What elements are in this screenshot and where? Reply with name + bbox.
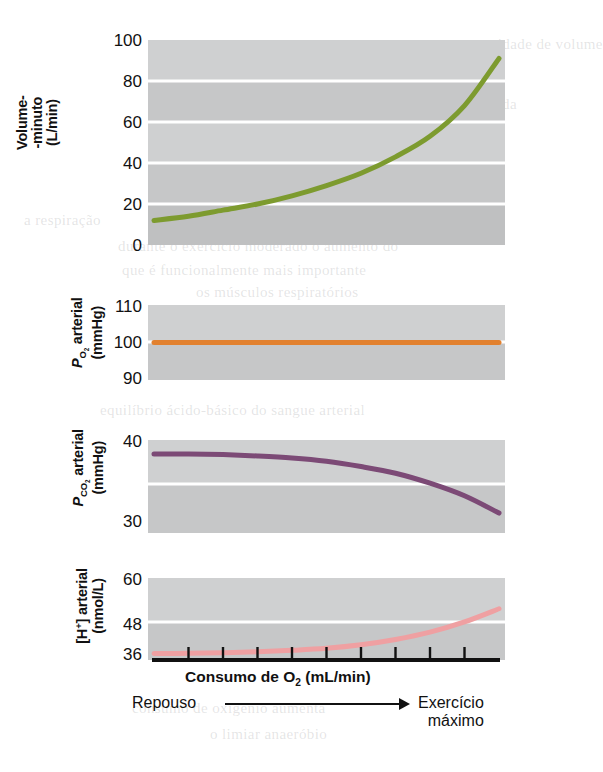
panel-pco2-arterial-svg (148, 440, 505, 533)
panel-h-arterial-plot (148, 578, 505, 660)
arrow-right-label-line2: máximo (418, 712, 484, 730)
arrow-right-label: Exercício máximo (418, 694, 484, 731)
ytick-90: 90 (96, 369, 142, 389)
x-axis-line (152, 658, 500, 662)
ylabel-line-3: (L/min) (45, 99, 61, 146)
ytick-0: 0 (96, 236, 142, 256)
ylabel-h-bracket: [H (74, 629, 90, 644)
ytick-20: 20 (96, 195, 142, 215)
ylabel-o2-subscript: O2 (77, 348, 88, 359)
ytick-60: 60 (96, 113, 142, 133)
showthrough-line: equilíbrio ácido-básico do sangue arteri… (100, 402, 365, 419)
panel-volume-minuto-plot (148, 40, 505, 245)
showthrough-line: a respiração (24, 212, 101, 229)
ylabel-plus-superscript: + (73, 623, 84, 628)
panel-pco2-arterial-plot (148, 440, 505, 533)
ytick-60: 60 (96, 570, 142, 590)
panel-volume-minuto-ylabel: Volume- -minuto (L/min) (15, 58, 60, 188)
arrow-shaft (225, 703, 400, 705)
ylabel-p-symbol: P (70, 497, 86, 506)
ytick-40: 40 (96, 154, 142, 174)
panel-volume-minuto-svg (148, 40, 505, 245)
ytick-48: 48 (96, 615, 142, 635)
ylabel-line-1: Volume- (14, 95, 30, 150)
ytick-110: 110 (96, 297, 142, 317)
arrow-right-label-line1: Exercício (418, 694, 484, 711)
ylabel-co2-subscript: CO2 (78, 480, 89, 497)
x-axis-title-units: (mL/min) (301, 668, 371, 685)
exercise-intensity-arrow-row: Repouso Exercício máximo (0, 694, 558, 744)
ylabel-arterial: ] arterial (74, 568, 90, 623)
arrow-head-icon (399, 698, 410, 710)
ytick-36: 36 (96, 645, 142, 665)
showthrough-line: que é funcionalmente mais importante (122, 262, 366, 279)
ytick-100: 100 (96, 333, 142, 353)
ylabel-line-2: -minuto (29, 97, 45, 149)
x-axis-title-main: Consumo de O (185, 668, 295, 685)
ytick-100: 100 (96, 31, 142, 51)
ylabel-arterial: arterial (70, 429, 86, 480)
ytick-80: 80 (96, 72, 142, 92)
panel-po2-arterial-plot (148, 305, 505, 380)
ylabel-p-symbol: P (69, 359, 85, 368)
ytick-30: 30 (96, 512, 142, 532)
panel-po2-arterial-svg (148, 305, 505, 380)
ylabel-arterial: arterial (69, 297, 85, 348)
panel-h-arterial-svg (148, 578, 505, 660)
ytick-40: 40 (96, 432, 142, 452)
showthrough-line: os músculos respiratórios (196, 284, 358, 301)
x-axis-title: Consumo de O2 (mL/min) (185, 668, 371, 688)
arrow-left-label: Repouso (132, 694, 196, 712)
